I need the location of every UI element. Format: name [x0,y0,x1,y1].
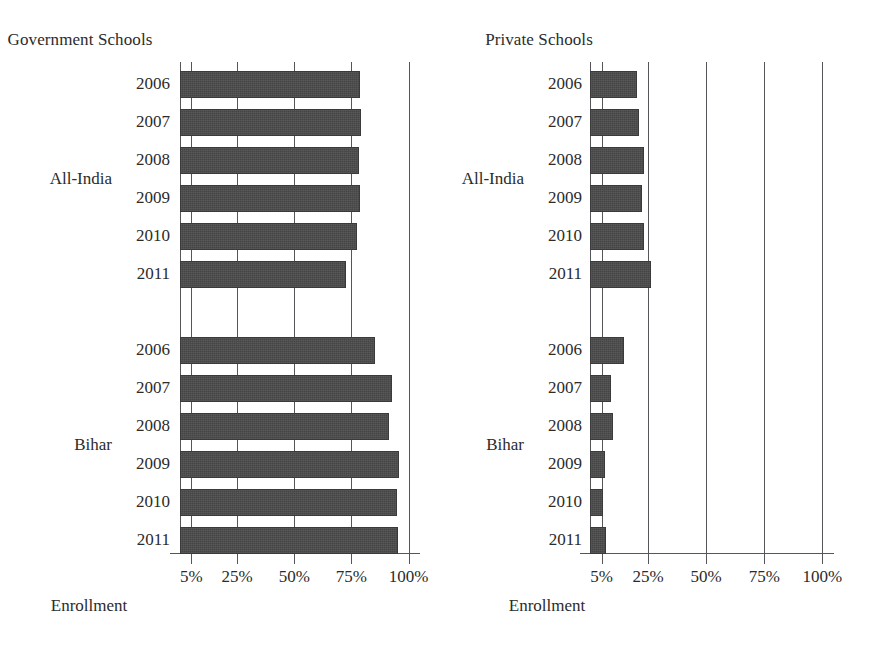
y-axis-spine [590,62,591,553]
y-axis-year-label: 2008 [548,416,582,436]
bar [180,413,389,440]
y-axis-year-label: 2008 [136,416,170,436]
y-axis-year-label: 2009 [136,454,170,474]
bar [180,71,360,98]
gridline [237,62,238,553]
x-axis-title-private-schools: Enrollment [326,596,768,616]
plot-area-private-schools: 5%25%50%75%100% [590,62,834,553]
bar [180,223,357,250]
bar [590,147,644,174]
panel-title-government-schools: Government Schools [0,30,301,50]
x-axis-tick [764,553,765,564]
x-axis-tick-label: 50% [279,567,310,587]
x-axis-tick [648,553,649,564]
y-axis-year-label: 2008 [136,150,170,170]
bar [180,109,361,136]
gridline [294,62,295,553]
bar [590,109,639,136]
bar [180,451,399,478]
x-axis-tick-label: 5% [180,567,203,587]
y-axis-year-label: 2006 [136,74,170,94]
gridline [351,62,352,553]
x-axis-tick [191,553,192,564]
enrollment-chart-figure: Government Schools 5%25%50%75%100% Enrol… [0,0,884,645]
x-axis-tick [602,553,603,564]
bar [180,261,346,288]
y-axis-year-label: 2007 [136,112,170,132]
y-axis-year-label: 2009 [548,188,582,208]
y-axis-year-label: 2011 [549,530,582,550]
x-axis-tick [351,553,352,564]
x-axis-tick [237,553,238,564]
y-axis-year-label: 2011 [549,264,582,284]
y-axis-group-label: Bihar [486,435,524,455]
bar [590,489,603,516]
bar [590,261,651,288]
y-axis-year-label: 2007 [548,378,582,398]
panel-title-private-schools: Private Schools [318,30,760,50]
x-axis-tick-label: 100% [389,567,429,587]
y-axis-year-label: 2010 [136,492,170,512]
bar [590,71,637,98]
y-axis-year-label: 2010 [548,226,582,246]
x-axis-tick [706,553,707,564]
y-axis-year-label: 2009 [548,454,582,474]
y-axis-year-label: 2009 [136,188,170,208]
x-axis-tick-label: 75% [336,567,367,587]
y-axis-year-label: 2007 [548,112,582,132]
x-axis-tick-label: 25% [222,567,253,587]
bar [590,185,642,212]
gridline [706,62,707,553]
gridline [191,62,192,553]
gridline [648,62,649,553]
y-axis-year-label: 2010 [548,492,582,512]
y-axis-year-label: 2011 [137,264,170,284]
x-axis-tick [294,553,295,564]
x-axis-tick-label: 100% [803,567,843,587]
y-axis-year-label: 2006 [136,340,170,360]
x-axis-tick [409,553,410,564]
panel-government-schools: Government Schools 5%25%50%75%100% Enrol… [0,0,442,645]
y-axis-group-label: All-India [462,169,524,189]
y-axis-year-label: 2006 [548,340,582,360]
bar [180,185,360,212]
y-axis-year-label: 2010 [136,226,170,246]
bar [180,527,398,554]
x-axis-tick-label: 25% [633,567,664,587]
bar [180,489,397,516]
bar [590,337,624,364]
bar [180,147,359,174]
bar [590,375,611,402]
gridline [602,62,603,553]
bar [590,527,606,554]
x-axis-tick-label: 5% [590,567,613,587]
gridline [409,62,410,553]
bar [180,337,375,364]
gridline [764,62,765,553]
x-axis-tick-label: 50% [691,567,722,587]
y-axis-group-label: Bihar [74,435,112,455]
bar [590,223,644,250]
bar [590,451,605,478]
x-axis-tick-label: 75% [749,567,780,587]
x-axis-tick [822,553,823,564]
y-axis-year-label: 2008 [548,150,582,170]
y-axis-group-label: All-India [50,169,112,189]
y-axis-year-label: 2011 [137,530,170,550]
gridline [822,62,823,553]
bar [590,413,613,440]
y-axis-spine [180,62,181,553]
bar [180,375,392,402]
panel-private-schools: Private Schools 5%25%50%75%100% Enrollme… [442,0,884,645]
x-axis-title-government-schools: Enrollment [0,596,310,616]
plot-area-government-schools: 5%25%50%75%100% [180,62,420,553]
y-axis-year-label: 2007 [136,378,170,398]
y-axis-year-label: 2006 [548,74,582,94]
